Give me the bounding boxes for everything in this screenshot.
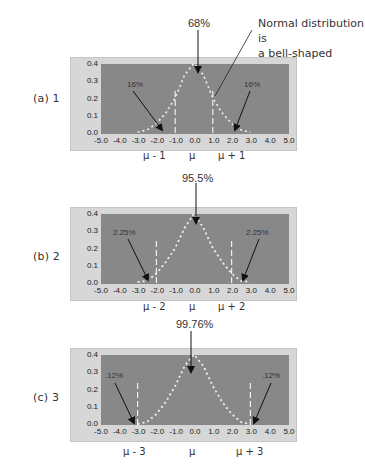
annotation-pointer [215,30,252,96]
overlay-graphics [0,0,365,472]
panel-c-curve [138,355,251,426]
arrow-icon [128,239,148,280]
panel-b-arrows [128,183,259,280]
arrow-icon [133,91,162,130]
panel-a-curve [138,63,251,133]
panel-c-arrows [115,331,271,423]
arrow-icon [254,383,271,423]
arrow-icon [115,383,134,423]
panel-a-arrows [133,30,252,130]
arrow-icon [235,91,250,130]
arrow-icon [243,239,259,280]
panel-b-curve [138,214,251,284]
